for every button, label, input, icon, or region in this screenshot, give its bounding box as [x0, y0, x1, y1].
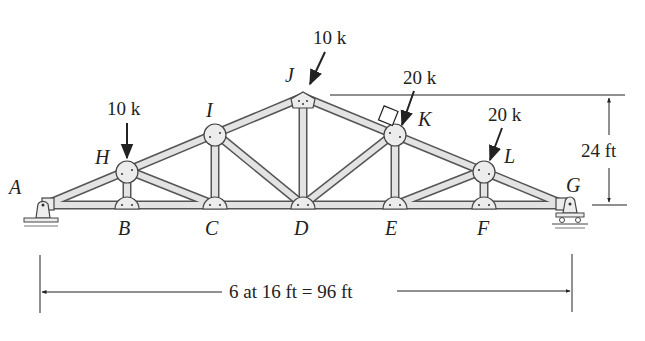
- svg-text:6 at 16 ft = 96 ft: 6 at 16 ft = 96 ft: [229, 281, 353, 302]
- svg-text:10 k: 10 k: [107, 98, 141, 119]
- joint-label-L: L: [503, 145, 515, 167]
- joint-label-G: G: [566, 174, 581, 196]
- joint-label-I: I: [205, 99, 214, 121]
- joint-label-K: K: [417, 108, 433, 130]
- plate-F: [472, 197, 496, 209]
- joint-labels: A B C D E F G H I J K L: [7, 64, 581, 239]
- joint-label-B: B: [118, 217, 130, 239]
- plate-J: [291, 92, 315, 108]
- svg-text:24 ft: 24 ft: [581, 140, 617, 161]
- truss-diagram: A B C D E F G H I J K L 10 k 10 k 20 k 2…: [0, 0, 645, 341]
- plate-L: [473, 161, 495, 183]
- svg-text:20 k: 20 k: [403, 67, 437, 88]
- arrow-normal-icon: [402, 91, 414, 125]
- load-H: 10 k: [107, 98, 141, 158]
- plate-K: [384, 124, 406, 146]
- load-J: 10 k: [310, 27, 347, 84]
- joint-label-C: C: [205, 217, 219, 239]
- joint-label-J: J: [285, 64, 295, 86]
- plate-B: [115, 197, 139, 209]
- joint-label-D: D: [293, 217, 309, 239]
- span-dimension: 6 at 16 ft = 96 ft: [40, 254, 572, 313]
- arrow-inclined-icon: [310, 52, 325, 84]
- arrow-inclined-icon: [490, 128, 502, 160]
- svg-text:10 k: 10 k: [313, 27, 347, 48]
- plate-I: [204, 124, 226, 146]
- right-angle-icon: [379, 106, 399, 126]
- joint-label-A: A: [7, 176, 22, 198]
- plate-H: [116, 161, 138, 183]
- svg-text:20 k: 20 k: [488, 104, 522, 125]
- joint-label-H: H: [94, 146, 111, 168]
- joint-label-F: F: [476, 217, 490, 239]
- joint-label-E: E: [384, 217, 397, 239]
